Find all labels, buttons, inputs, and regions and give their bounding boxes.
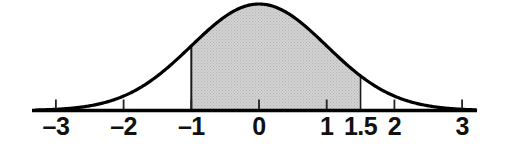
normal-distribution-figure: –3–2–1011.523	[0, 0, 507, 147]
tick-label-1_5: 1.5	[344, 114, 377, 139]
axis-tick-marks	[56, 100, 462, 110]
tick-label-neg3: –3	[42, 114, 69, 139]
tick-label-2: 2	[388, 114, 401, 139]
tick-label-neg1: –1	[178, 114, 205, 139]
tick-label-neg2: –2	[110, 114, 137, 139]
tick-label-1: 1	[320, 114, 333, 139]
tick-label-0: 0	[252, 114, 265, 139]
tick-label-3: 3	[455, 114, 468, 139]
